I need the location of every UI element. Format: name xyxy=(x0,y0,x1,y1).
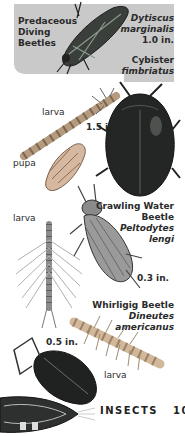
page-footer: INSECTS 105 xyxy=(100,405,185,416)
whirligig-swimming-icon xyxy=(0,392,95,436)
peltodytes-genus: Peltodytes xyxy=(96,223,174,234)
peltodytes-size: 0.3 in. xyxy=(137,273,169,284)
pupa-label: pupa xyxy=(13,158,36,169)
cybister-label: Cybister fimbriatus xyxy=(121,55,174,77)
cybister-species: fimbriatus xyxy=(121,66,174,77)
dytiscus-genus: Dytiscus xyxy=(121,13,174,24)
peltodytes-common-line-1: Crawling Water xyxy=(96,201,174,212)
cybister-genus: Cybister xyxy=(121,55,174,66)
larva-label-3: larva xyxy=(104,370,127,381)
cybister-adult-icon xyxy=(100,80,180,200)
dytiscus-species: marginalis xyxy=(121,24,174,35)
page-number: 105 xyxy=(173,405,185,416)
peltodytes-label: Crawling Water Beetle Peltodytes lengi xyxy=(96,201,174,245)
peltodytes-species: lengi xyxy=(96,234,174,245)
dineutes-common: Whirligig Beetle xyxy=(92,300,174,311)
peltodytes-common-line-2: Beetle xyxy=(96,212,174,223)
dytiscus-label: Dytiscus marginalis 1.0 in. xyxy=(121,13,174,46)
dytiscus-size: 1.0 in. xyxy=(121,35,174,46)
section-title: INSECTS xyxy=(100,405,158,416)
